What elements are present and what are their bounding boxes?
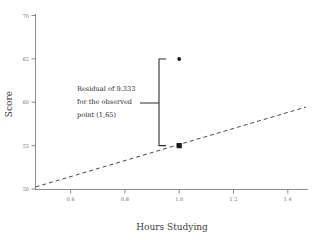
- y-axis-ticks: 70 65 60 55 50: [23, 13, 36, 193]
- regression-line: [36, 107, 307, 187]
- y-tick-label: 60: [23, 99, 29, 105]
- annotation-line-3: point (1,65): [77, 111, 117, 119]
- y-tick-label: 65: [23, 56, 29, 62]
- annotation-line-2: for the observed: [77, 98, 133, 106]
- y-tick-label: 70: [23, 13, 29, 19]
- predicted-data-point[interactable]: [177, 143, 182, 148]
- residual-annotation: Residual of 9.333 for the observed point…: [77, 85, 135, 119]
- residual-bracket: [159, 59, 166, 146]
- x-tick-label: 1.2: [230, 196, 238, 202]
- observed-data-point[interactable]: [177, 57, 181, 61]
- x-tick-label: 1.4: [284, 196, 292, 202]
- annotation-line-1: Residual of 9.333: [77, 85, 135, 93]
- x-tick-label: 1.0: [175, 196, 183, 202]
- residual-plot-figure: 70 65 60 55 50 0.6 0.8 1.0 1.2 1.4: [0, 0, 313, 240]
- y-axis-title: Score: [4, 91, 14, 117]
- x-axis-title: Hours Studying: [136, 222, 208, 232]
- x-axis-ticks: 0.6 0.8 1.0 1.2 1.4: [67, 190, 292, 203]
- x-tick-label: 0.8: [121, 196, 129, 202]
- chart-canvas: 70 65 60 55 50 0.6 0.8 1.0 1.2 1.4: [0, 0, 313, 240]
- y-tick-label: 55: [23, 143, 29, 149]
- y-tick-label: 50: [23, 186, 29, 192]
- x-tick-label: 0.6: [67, 196, 75, 202]
